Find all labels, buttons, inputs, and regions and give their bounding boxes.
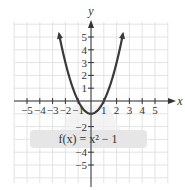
x-tick-label: 1 — [101, 104, 107, 116]
y-tick-label: −5 — [75, 159, 87, 171]
y-tick-label: 3 — [82, 57, 88, 69]
x-axis-label: x — [176, 94, 183, 108]
y-tick-label: 2 — [82, 69, 88, 81]
y-tick-label: 5 — [82, 31, 88, 43]
x-tick-label: 5 — [152, 104, 158, 116]
function-label: f(x) = x² − 1 — [58, 132, 117, 146]
x-tick-label: −3 — [47, 104, 59, 116]
y-tick-label: 1 — [82, 82, 88, 94]
x-tick-label: −5 — [21, 104, 33, 116]
x-tick-label: −2 — [60, 104, 72, 116]
y-tick-label: 4 — [82, 44, 88, 56]
x-tick-label: 2 — [114, 104, 120, 116]
x-tick-label: 3 — [127, 104, 133, 116]
parabola-graph: f(x) = x² − 1 −5−4−3−2−11234554321−2−4−5… — [0, 0, 185, 190]
curve-arrow-icon — [119, 32, 125, 39]
x-tick-label: −4 — [34, 104, 46, 116]
curve-arrow-icon — [57, 32, 63, 39]
x-tick-label: 4 — [139, 104, 145, 116]
y-tick-label: −4 — [75, 146, 87, 158]
x-tick-label: −1 — [72, 104, 84, 116]
x-axis-arrow-icon — [168, 98, 176, 104]
y-axis-label: y — [87, 4, 94, 18]
y-tick-label: −2 — [75, 121, 87, 133]
